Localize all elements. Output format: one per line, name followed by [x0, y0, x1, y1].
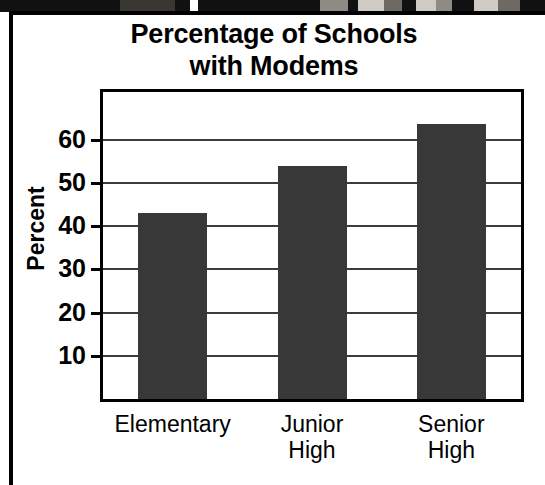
x-axis-tick-label-line: High [361, 437, 541, 463]
plot-area [100, 89, 524, 402]
y-axis-tick-mark [91, 268, 100, 271]
y-axis-tick-label: 30 [30, 256, 86, 281]
y-axis-tick-label: 50 [30, 170, 86, 195]
y-axis-tick-mark [91, 139, 100, 142]
y-axis-tick-label: 10 [30, 343, 86, 368]
chart-figure: Percentage of Schools with Modems Percen… [0, 0, 545, 485]
bar [417, 124, 486, 399]
x-axis-tick-label: SeniorHigh [361, 411, 541, 464]
chart-title: Percentage of Schools with Modems [9, 19, 539, 83]
y-axis-tick-label: 40 [30, 213, 86, 238]
chart-title-line-1: Percentage of Schools [9, 19, 539, 51]
chart-title-line-2: with Modems [9, 51, 539, 83]
x-axis-tick-label-line: Senior [361, 411, 541, 437]
bar [278, 166, 347, 399]
y-axis-tick-label: 60 [30, 127, 86, 152]
bar [138, 213, 207, 399]
y-axis-tick-mark [91, 355, 100, 358]
y-axis-tick-mark [91, 182, 100, 185]
y-axis-tick-mark [91, 225, 100, 228]
y-axis-tick-label: 20 [30, 300, 86, 325]
y-axis-tick-mark [91, 312, 100, 315]
